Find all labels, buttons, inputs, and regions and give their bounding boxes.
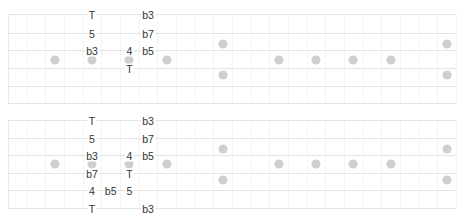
fret-line	[381, 14, 382, 103]
note-marker: 5	[88, 133, 96, 144]
inlay-dot-icon	[218, 176, 227, 185]
fret-line	[456, 14, 457, 103]
string-line	[8, 155, 456, 156]
fret-line	[232, 14, 233, 103]
inlay-dot-icon	[162, 160, 171, 169]
note-marker: T	[88, 115, 96, 126]
string-line	[8, 120, 456, 121]
fret-line	[195, 14, 196, 103]
note-marker: b7	[141, 133, 155, 144]
fret-line	[83, 14, 84, 103]
inlay-dot-icon	[274, 56, 283, 65]
note-marker: b7	[85, 168, 99, 179]
inlay-dot-icon	[50, 160, 59, 169]
inlay-dot-icon	[274, 160, 283, 169]
fret-line	[251, 120, 252, 208]
fret-line	[437, 14, 438, 103]
fret-line	[232, 120, 233, 208]
fret-line	[213, 14, 214, 103]
inlay-dot-icon	[218, 71, 227, 80]
inlay-dot-icon	[218, 145, 227, 154]
note-marker: b5	[104, 185, 118, 196]
fret-line	[288, 14, 289, 103]
inlay-dot-icon	[386, 56, 395, 65]
fret-line	[363, 14, 364, 103]
fret-line	[213, 120, 214, 208]
string-line	[8, 50, 456, 51]
inlay-dot-icon	[386, 160, 395, 169]
note-marker: b5	[141, 45, 155, 56]
string-line	[8, 68, 456, 69]
inlay-dot-icon	[312, 56, 321, 65]
fret-line	[45, 120, 46, 208]
note-marker: b3	[141, 203, 155, 214]
fret-line	[400, 14, 401, 103]
note-marker: 5	[88, 28, 96, 39]
string-line	[8, 190, 456, 191]
inlay-dot-icon	[349, 56, 358, 65]
fret-line	[27, 14, 28, 103]
inlay-dot-icon	[312, 160, 321, 169]
inlay-dot-icon	[50, 56, 59, 65]
fret-line	[139, 120, 140, 208]
fret-line	[157, 14, 158, 103]
fret-line	[64, 120, 65, 208]
note-marker: b3	[141, 9, 155, 20]
note-marker: b3	[85, 45, 99, 56]
note-marker: T	[88, 9, 96, 20]
note-marker: 4	[125, 150, 133, 161]
fret-line	[269, 120, 270, 208]
note-marker: 4	[88, 185, 96, 196]
string-line	[8, 86, 456, 87]
fret-line	[325, 120, 326, 208]
fret-line	[157, 120, 158, 208]
inlay-dot-icon	[442, 71, 451, 80]
nut-line	[8, 14, 9, 103]
fret-line	[176, 120, 177, 208]
note-marker: T	[125, 63, 133, 74]
string-line	[8, 14, 456, 15]
fret-line	[27, 120, 28, 208]
fret-line	[344, 120, 345, 208]
fret-line	[307, 120, 308, 208]
fret-line	[307, 14, 308, 103]
fret-line	[344, 14, 345, 103]
fret-line	[456, 120, 457, 208]
note-marker: b3	[141, 115, 155, 126]
fret-line	[325, 14, 326, 103]
inlay-dot-icon	[349, 160, 358, 169]
inlay-dot-icon	[162, 56, 171, 65]
string-line	[8, 103, 456, 104]
fret-line	[419, 120, 420, 208]
inlay-dot-icon	[442, 40, 451, 49]
fret-line	[120, 120, 121, 208]
fret-line	[120, 14, 121, 103]
note-marker: T	[88, 203, 96, 214]
fret-line	[195, 120, 196, 208]
fret-line	[363, 120, 364, 208]
nut-line	[8, 120, 9, 208]
string-line	[8, 138, 456, 139]
string-line	[8, 208, 456, 209]
fret-line	[419, 14, 420, 103]
fret-line	[139, 14, 140, 103]
fret-line	[288, 120, 289, 208]
note-marker: T	[125, 168, 133, 179]
string-line	[8, 173, 456, 174]
fret-line	[251, 14, 252, 103]
note-marker: b5	[141, 150, 155, 161]
fret-line	[400, 120, 401, 208]
fret-line	[45, 14, 46, 103]
fret-line	[176, 14, 177, 103]
fret-line	[64, 14, 65, 103]
fret-line	[101, 14, 102, 103]
note-marker: 4	[125, 45, 133, 56]
note-marker: b7	[141, 28, 155, 39]
inlay-dot-icon	[218, 40, 227, 49]
inlay-dot-icon	[442, 176, 451, 185]
fret-line	[381, 120, 382, 208]
fret-line	[437, 120, 438, 208]
note-marker: 5	[125, 185, 133, 196]
fret-line	[269, 14, 270, 103]
fret-line	[101, 120, 102, 208]
